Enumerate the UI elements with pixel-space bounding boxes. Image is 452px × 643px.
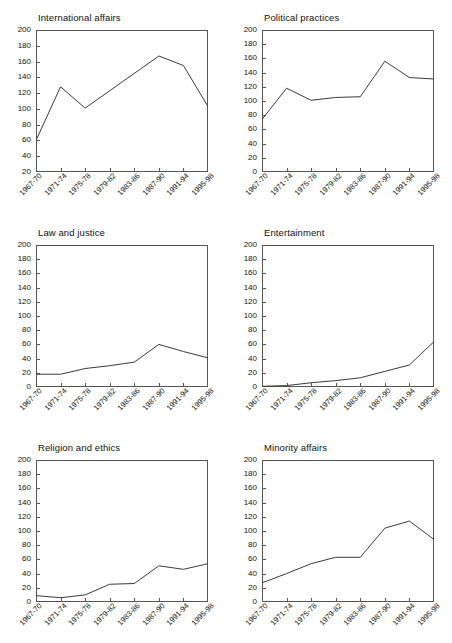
plot-area: [36, 30, 208, 172]
y-tick-label: 140: [18, 499, 31, 507]
chart-title: Religion and ethics: [38, 442, 120, 454]
chart-title: International affairs: [38, 12, 121, 24]
plot-area: [36, 460, 208, 602]
x-axis-ticks: 1967-701971-741975-781979-821983-861987-…: [262, 387, 438, 433]
data-line: [36, 56, 208, 140]
y-tick-label: 100: [18, 312, 31, 320]
y-tick-label: 180: [18, 470, 31, 478]
y-tick-label: 200: [18, 456, 31, 464]
y-tick-label: 120: [18, 89, 31, 97]
chart-panel-5: Minority affairs 02040608010012014016018…: [226, 430, 452, 643]
y-tick-label: 200: [244, 241, 257, 249]
y-tick-label: 160: [18, 269, 31, 277]
y-tick-label: 0: [253, 598, 257, 606]
y-tick-label: 40: [22, 152, 31, 160]
y-tick-label: 140: [244, 499, 257, 507]
chart-title: Entertainment: [264, 227, 324, 239]
plot-area: [262, 460, 434, 602]
y-tick-label: 80: [248, 541, 257, 549]
y-tick-label: 160: [244, 54, 257, 62]
y-tick-label: 140: [18, 73, 31, 81]
y-tick-label: 40: [22, 355, 31, 363]
y-tick-label: 0: [253, 383, 257, 391]
chart-panel-2: Law and justice 020406080100120140160180…: [0, 215, 226, 430]
chart-title: Political practices: [264, 12, 339, 24]
y-tick-label: 80: [22, 326, 31, 334]
y-tick-label: 40: [248, 355, 257, 363]
y-tick-label: 120: [18, 513, 31, 521]
y-tick-label: 20: [22, 168, 31, 176]
chart-panel-1: Political practices 02040608010012014016…: [226, 0, 452, 215]
y-tick-label: 180: [18, 255, 31, 263]
y-tick-label: 60: [22, 555, 31, 563]
y-tick-label: 0: [27, 383, 31, 391]
x-tick-label: 1995-98: [436, 367, 452, 392]
y-tick-label: 80: [22, 541, 31, 549]
x-axis-ticks: 1967-701971-741975-781979-821983-861987-…: [36, 172, 212, 218]
y-tick-label: 100: [244, 97, 257, 105]
y-tick-label: 180: [244, 255, 257, 263]
data-line: [262, 61, 434, 119]
y-tick-label: 160: [18, 484, 31, 492]
y-tick-label: 180: [18, 42, 31, 50]
y-axis-ticks: 020406080100120140160180200: [226, 460, 260, 602]
y-tick-label: 120: [18, 298, 31, 306]
y-tick-label: 140: [244, 284, 257, 292]
y-axis-ticks: 020406080100120140160180200: [0, 245, 34, 387]
y-tick-label: 160: [244, 484, 257, 492]
x-axis-ticks: 1967-701971-741975-781979-821983-861987-…: [262, 602, 438, 643]
y-tick-label: 60: [22, 340, 31, 348]
y-tick-label: 20: [248, 584, 257, 592]
plot-area: [262, 30, 434, 172]
y-tick-label: 80: [22, 121, 31, 129]
y-tick-label: 200: [244, 26, 257, 34]
y-tick-label: 160: [18, 58, 31, 66]
y-tick-label: 180: [244, 470, 257, 478]
x-tick-label: 1995-98: [436, 152, 452, 177]
y-tick-label: 40: [248, 570, 257, 578]
y-tick-label: 100: [244, 527, 257, 535]
y-tick-label: 20: [248, 369, 257, 377]
plot-area: [36, 245, 208, 387]
y-tick-label: 120: [244, 83, 257, 91]
y-tick-label: 200: [18, 241, 31, 249]
chart-panel-4: Religion and ethics 02040608010012014016…: [0, 430, 226, 643]
y-tick-label: 140: [244, 69, 257, 77]
y-tick-label: 20: [22, 584, 31, 592]
y-tick-label: 0: [253, 168, 257, 176]
y-tick-label: 60: [248, 340, 257, 348]
y-tick-label: 20: [22, 369, 31, 377]
y-tick-label: 40: [248, 140, 257, 148]
y-tick-label: 80: [248, 111, 257, 119]
y-tick-label: 40: [22, 570, 31, 578]
chart-panel-0: International affairs 204060801001201401…: [0, 0, 226, 215]
y-tick-label: 100: [244, 312, 257, 320]
y-tick-label: 100: [18, 105, 31, 113]
chart-title: Minority affairs: [264, 442, 327, 454]
plot-area: [262, 245, 434, 387]
y-axis-ticks: 020406080100120140160180200: [0, 460, 34, 602]
y-tick-label: 80: [248, 326, 257, 334]
chart-panel-3: Entertainment 02040608010012014016018020…: [226, 215, 452, 430]
x-axis-ticks: 1967-701971-741975-781979-821983-861987-…: [262, 172, 438, 218]
x-axis-ticks: 1967-701971-741975-781979-821983-861987-…: [36, 387, 212, 433]
y-tick-label: 60: [248, 555, 257, 563]
y-tick-label: 20: [248, 154, 257, 162]
chart-grid: International affairs 204060801001201401…: [0, 0, 452, 643]
data-line: [262, 521, 434, 583]
y-tick-label: 120: [244, 298, 257, 306]
y-tick-label: 60: [248, 125, 257, 133]
y-axis-ticks: 020406080100120140160180200: [226, 30, 260, 172]
y-axis-ticks: 020406080100120140160180200: [226, 245, 260, 387]
chart-title: Law and justice: [38, 227, 105, 239]
x-axis-ticks: 1967-701971-741975-781979-821983-861987-…: [36, 602, 212, 643]
y-tick-label: 60: [22, 136, 31, 144]
y-tick-label: 0: [27, 598, 31, 606]
y-axis-ticks: 20406080100120140160180200: [0, 30, 34, 172]
y-tick-label: 200: [244, 456, 257, 464]
y-tick-label: 180: [244, 40, 257, 48]
y-tick-label: 200: [18, 26, 31, 34]
y-tick-label: 160: [244, 269, 257, 277]
x-tick-label: 1995-98: [436, 582, 452, 607]
y-tick-label: 100: [18, 527, 31, 535]
